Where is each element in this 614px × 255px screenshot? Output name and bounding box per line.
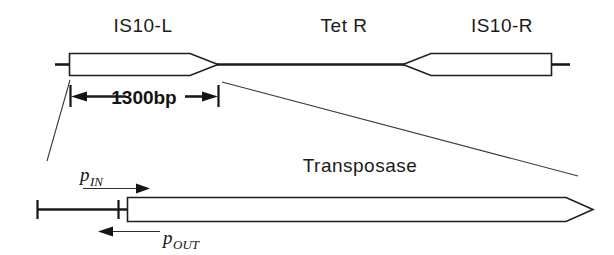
label-p-out-subscript: OUT [173, 237, 200, 252]
dimension-arrowhead-right [202, 92, 218, 102]
label-is10-left: IS10-L [114, 15, 173, 36]
transposase-arrow [128, 198, 594, 222]
label-is10-right: IS10-R [471, 15, 533, 36]
p-out-arrowhead [98, 227, 113, 237]
label-tet-r: Tet R [321, 15, 368, 36]
is10-left-box [70, 54, 219, 76]
label-p-in-subscript: IN [89, 174, 104, 189]
label-p-in-main: p [78, 164, 90, 185]
p-in-arrowhead [136, 184, 150, 194]
left-leader-line [47, 80, 70, 161]
label-p-out-main: p [161, 227, 173, 248]
transposon-diagram: IS10-L Tet R IS10-R 1300bp Transposase p… [0, 0, 614, 255]
label-transposase: Transposase [303, 155, 418, 176]
is10-right-box [403, 54, 552, 76]
dimension-label-1300bp: 1300bp [111, 87, 176, 108]
diagram-canvas: IS10-L Tet R IS10-R 1300bp Transposase p… [0, 0, 614, 255]
dimension-arrowhead-left [71, 92, 87, 102]
